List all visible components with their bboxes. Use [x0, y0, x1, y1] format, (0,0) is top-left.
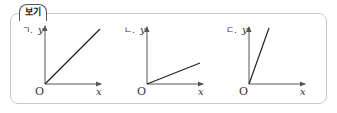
y-axis-label: y [139, 24, 146, 35]
y-axis-label: y [37, 24, 44, 35]
y-axis-label: y [241, 24, 248, 35]
origin-label: O [35, 85, 44, 98]
x-axis-label: x [198, 86, 204, 97]
graph-1: ㄱ. y O x [22, 24, 102, 98]
graph-3: ㄷ. y O x [226, 24, 306, 98]
graphs-canvas: ㄱ. y O x ㄴ. y O x ㄷ. y O x [0, 0, 337, 113]
graph-2: ㄴ. y O x [124, 24, 204, 98]
x-axis-label: x [300, 86, 306, 97]
graph-line [45, 29, 100, 84]
graph-3-label: ㄷ. [226, 25, 237, 35]
origin-label: O [239, 85, 248, 98]
graph-line [147, 63, 200, 84]
origin-label: O [137, 85, 146, 98]
graph-2-label: ㄴ. [124, 25, 135, 35]
graph-1-label: ㄱ. [22, 25, 33, 35]
x-axis-label: x [96, 86, 102, 97]
graph-line [249, 28, 269, 84]
